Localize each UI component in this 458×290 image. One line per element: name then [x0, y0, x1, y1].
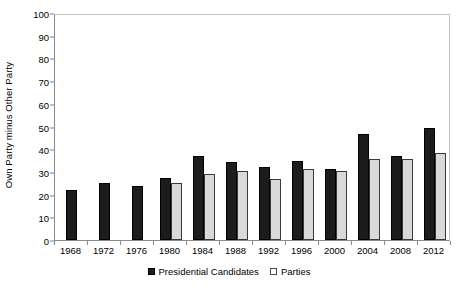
y-axis-tick-label: 10 — [38, 213, 49, 224]
x-axis-tick-mark — [318, 241, 319, 245]
x-axis-tick-label: 1992 — [258, 245, 279, 256]
x-axis-tick-mark — [351, 241, 352, 245]
bar-series-container — [55, 15, 449, 240]
y-axis-tick-label: 80 — [38, 54, 49, 65]
bar-presidential-candidates-1972 — [99, 183, 110, 240]
y-axis-tick-label: 50 — [38, 122, 49, 133]
plot-area — [54, 14, 450, 241]
bar-group — [418, 15, 451, 240]
x-axis-tick-mark — [54, 241, 55, 245]
bar-presidential-candidates-1996 — [292, 161, 303, 240]
bar-group — [88, 15, 121, 240]
bar-group — [385, 15, 418, 240]
y-axis-ticks: 1009080706050403020100 — [16, 0, 54, 250]
hollow-square-icon — [270, 268, 277, 275]
x-axis-tick-label: 1968 — [60, 245, 81, 256]
x-axis-tick-label: 2004 — [357, 245, 378, 256]
bar-presidential-candidates-1976 — [132, 186, 143, 240]
bar-parties-1996 — [303, 169, 314, 241]
bar-group — [154, 15, 187, 240]
x-axis-tick-mark — [417, 241, 418, 245]
legend-label: Parties — [281, 266, 311, 277]
x-axis-tick-label: 1976 — [126, 245, 147, 256]
chart-legend: Presidential CandidatesParties — [0, 266, 458, 277]
y-axis-title-label: Own Party minus Other Party — [3, 62, 14, 188]
bar-group — [187, 15, 220, 240]
legend-item-presidential-candidates[interactable]: Presidential Candidates — [148, 266, 259, 277]
y-axis-title: Own Party minus Other Party — [0, 0, 16, 250]
bar-presidential-candidates-1992 — [259, 167, 270, 240]
y-axis-tick-label: 60 — [38, 99, 49, 110]
x-axis-tick-mark — [87, 241, 88, 245]
bar-parties-2000 — [336, 171, 347, 240]
x-axis-tick-label: 2000 — [324, 245, 345, 256]
y-axis-tick-label: 100 — [33, 9, 49, 20]
bar-parties-2008 — [402, 159, 413, 240]
bar-presidential-candidates-1988 — [226, 162, 237, 240]
x-axis-tick-mark — [450, 241, 451, 245]
x-axis-tick-mark — [252, 241, 253, 245]
x-axis-tick-label: 1996 — [291, 245, 312, 256]
bar-presidential-candidates-1980 — [160, 178, 171, 240]
bar-chart: Own Party minus Other Party 100908070605… — [0, 0, 458, 290]
bar-group — [319, 15, 352, 240]
bar-presidential-candidates-1984 — [193, 156, 204, 240]
y-axis-tick-label: 40 — [38, 145, 49, 156]
bar-group — [121, 15, 154, 240]
bar-group — [352, 15, 385, 240]
x-axis-tick-label: 1988 — [225, 245, 246, 256]
y-axis-tick-label: 70 — [38, 77, 49, 88]
y-axis-tick-label: 0 — [44, 236, 49, 247]
bar-parties-1984 — [204, 174, 215, 240]
bar-group — [55, 15, 88, 240]
bar-presidential-candidates-2012 — [424, 128, 435, 240]
y-axis-tick-label: 20 — [38, 190, 49, 201]
x-axis-tick-mark — [186, 241, 187, 245]
bar-group — [286, 15, 319, 240]
bar-parties-2004 — [369, 159, 380, 240]
x-axis-tick-mark — [153, 241, 154, 245]
bar-presidential-candidates-1968 — [66, 190, 77, 240]
bar-presidential-candidates-2008 — [391, 156, 402, 240]
x-axis-tick-label: 1980 — [159, 245, 180, 256]
bar-group — [253, 15, 286, 240]
y-axis-tick-label: 30 — [38, 167, 49, 178]
bar-presidential-candidates-2004 — [358, 134, 369, 240]
bar-presidential-candidates-2000 — [325, 169, 336, 241]
x-axis-tick-mark — [120, 241, 121, 245]
bar-parties-2012 — [435, 153, 446, 240]
x-axis-tick-mark — [384, 241, 385, 245]
bar-group — [220, 15, 253, 240]
filled-square-icon — [148, 268, 155, 275]
x-axis-tick-mark — [285, 241, 286, 245]
legend-item-parties[interactable]: Parties — [270, 266, 311, 277]
bar-parties-1988 — [237, 171, 248, 240]
y-axis-tick-label: 90 — [38, 31, 49, 42]
x-axis-ticks: 1968197219761980198419881992199620002004… — [54, 241, 450, 259]
bar-parties-1980 — [171, 183, 182, 240]
x-axis-tick-label: 2012 — [423, 245, 444, 256]
x-axis-tick-mark — [219, 241, 220, 245]
legend-label: Presidential Candidates — [159, 266, 259, 277]
x-axis-tick-label: 2008 — [390, 245, 411, 256]
x-axis-tick-label: 1972 — [93, 245, 114, 256]
x-axis-tick-label: 1984 — [192, 245, 213, 256]
bar-parties-1992 — [270, 179, 281, 240]
